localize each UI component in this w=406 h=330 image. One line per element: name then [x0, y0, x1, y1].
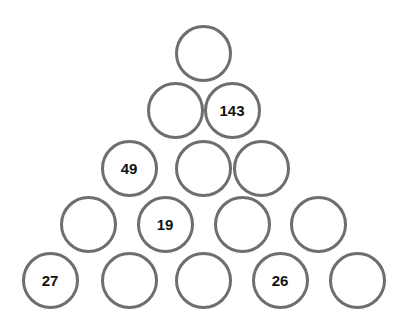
pyramid-cell-r5c1[interactable]: 27	[22, 252, 79, 309]
pyramid-cell-r4c2[interactable]: 19	[137, 196, 194, 253]
pyramid-cell-r1c1[interactable]	[175, 25, 232, 82]
pyramid-cell-value: 26	[272, 273, 289, 288]
pyramid-cell-r3c2[interactable]	[175, 140, 232, 197]
pyramid-cell-value: 19	[157, 217, 174, 232]
pyramid-cell-r3c3[interactable]	[233, 140, 290, 197]
pyramid-cell-value: 49	[121, 161, 138, 176]
pyramid-cell-r2c1[interactable]	[147, 82, 204, 139]
pyramid-cell-r5c5[interactable]	[329, 252, 386, 309]
pyramid-cell-r5c2[interactable]	[101, 252, 158, 309]
pyramid-cell-r4c3[interactable]	[214, 196, 271, 253]
pyramid-cell-r4c1[interactable]	[60, 196, 117, 253]
pyramid-cell-r2c2[interactable]: 143	[204, 82, 261, 139]
pyramid-cell-r3c1[interactable]: 49	[101, 140, 158, 197]
pyramid-cell-r5c3[interactable]	[175, 252, 232, 309]
pyramid-cell-value: 27	[42, 273, 59, 288]
pyramid-cell-value: 143	[219, 103, 244, 118]
number-pyramid-diagram: 14349192726	[0, 0, 406, 330]
pyramid-cell-r5c4[interactable]: 26	[252, 252, 309, 309]
pyramid-cell-r4c4[interactable]	[290, 196, 347, 253]
